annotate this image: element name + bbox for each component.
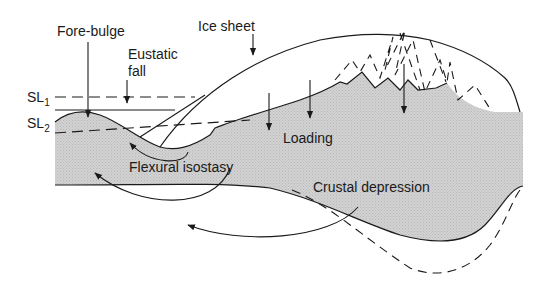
label-flexural-isostasy: Flexural isostasy [129,159,233,175]
label-sl2: SL2 [27,115,50,134]
label-sl2-main: SL [27,115,44,131]
label-loading: Loading [283,130,333,146]
diagram-canvas: Fore-bulge Eustatic fall Ice sheet SL1 S… [0,0,544,284]
label-sl2-sub: 2 [44,123,50,134]
label-fall: fall [128,63,146,79]
label-eustatic: Eustatic [128,46,178,62]
label-fore-bulge: Fore-bulge [57,23,125,39]
label-ice-sheet: Ice sheet [198,18,255,34]
label-crustal-depression: Crustal depression [313,179,430,195]
label-sl1-main: SL [27,89,44,105]
label-sl1: SL1 [27,89,50,108]
label-sl1-sub: 1 [44,97,50,108]
diagram-svg: Fore-bulge Eustatic fall Ice sheet SL1 S… [0,0,544,284]
crustal-depression-arrow [188,207,358,237]
